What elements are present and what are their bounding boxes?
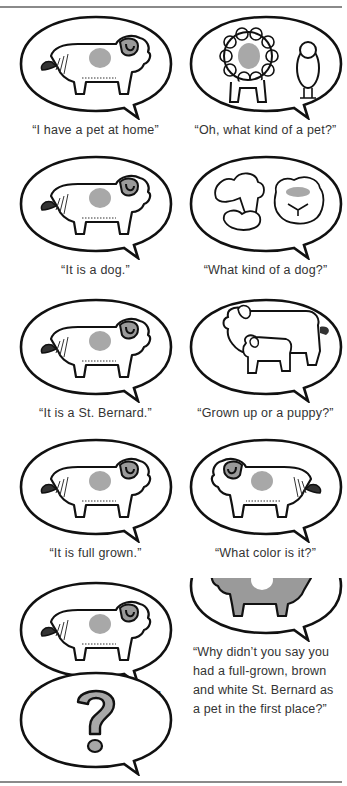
speech-bubble-dog-icon: [16, 295, 176, 403]
caption: “It is full grown.”: [10, 546, 181, 560]
speech-bubble-dog-facing-left-icon: [186, 435, 346, 543]
panel-8: “What color is it?”: [180, 435, 347, 560]
panel-2: “Oh, what kind of a pet?”: [180, 12, 347, 137]
panel-7: “It is full grown.”: [10, 435, 181, 560]
panel-3: “It is a dog.”: [10, 152, 181, 277]
panel-5: “It is a St. Bernard.”: [10, 295, 181, 420]
speech-bubble-dog-icon: [16, 152, 176, 260]
bottom-rule: [0, 781, 342, 783]
caption: “It is a St. Bernard.”: [10, 406, 181, 420]
caption: “Oh, what kind of a pet?”: [180, 123, 347, 137]
panel-10: [180, 578, 347, 642]
final-question-text: “Why didn’t you say you had a full-grown…: [193, 643, 343, 719]
panel-1: “I have a pet at home”: [10, 12, 181, 137]
caption: “What kind of a dog?”: [180, 263, 347, 277]
caption: “I have a pet at home”: [10, 123, 181, 137]
caption: “What color is it?”: [180, 546, 347, 560]
speech-bubble-dog-icon: [16, 12, 176, 120]
caption: “It is a dog.”: [10, 263, 181, 277]
top-rule: [0, 6, 342, 8]
speech-bubble-question-mark-icon: [16, 668, 176, 776]
speech-bubble-dog-icon: [16, 435, 176, 543]
panel-6: “Grown up or a puppy?”: [180, 295, 347, 420]
panel-4: “What kind of a dog?”: [180, 152, 347, 277]
panel-11: [10, 668, 181, 776]
speech-bubble-poodle-and-bulldog-icon: [186, 152, 346, 260]
speech-bubble-lion-and-bird-icon: [186, 12, 346, 120]
caption: “Grown up or a puppy?”: [180, 406, 347, 420]
speech-bubble-dark-dog-icon: [186, 578, 346, 642]
speech-bubble-dog-and-puppy-icon: [186, 295, 346, 403]
